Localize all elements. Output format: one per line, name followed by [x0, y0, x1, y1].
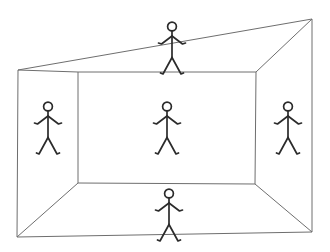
figure-head — [165, 189, 174, 198]
figure-arm-right — [169, 203, 183, 211]
figure-arm-right — [167, 116, 181, 124]
stick-figure-right-wall: Figure on right wall — [275, 102, 302, 154]
edge-bottom-right — [255, 184, 312, 232]
stick-figure-left-wall: Figure on left wall — [35, 102, 62, 154]
figure-arm-left — [159, 36, 173, 44]
stick-figure-floor: Figure on floor — [156, 189, 183, 241]
figure-arm-right — [288, 116, 302, 124]
figure-leg-left — [37, 138, 49, 155]
figure-arm-left — [156, 203, 170, 211]
figure-head — [284, 102, 293, 111]
figure-head — [44, 102, 53, 111]
figure-leg-right — [167, 138, 179, 155]
figure-leg-left — [156, 138, 168, 155]
figure-leg-right — [48, 138, 60, 155]
figure-arm-right — [48, 116, 62, 124]
edge-bottom-left — [17, 183, 78, 237]
room-perspective-diagram: Figure on ceilingFigure on left wallFigu… — [0, 0, 330, 252]
figure-head — [163, 102, 172, 111]
figure-leg-right — [288, 138, 300, 155]
stick-figure-group: Figure on ceilingFigure on left wallFigu… — [35, 22, 302, 241]
figure-head — [168, 22, 177, 31]
box-wireframe — [17, 19, 312, 237]
figure-leg-left — [277, 138, 289, 155]
stick-figure-ceiling: Figure on ceiling — [159, 22, 186, 74]
stick-figure-back-wall: Figure on back wall — [154, 102, 181, 154]
figure-leg-right — [169, 225, 181, 242]
edge-top-left — [18, 70, 78, 72]
figure-leg-left — [158, 225, 170, 242]
diagram-canvas: Figure on ceilingFigure on left wallFigu… — [0, 0, 330, 252]
front-opening — [17, 19, 312, 237]
figure-arm-left — [35, 116, 49, 124]
figure-arm-left — [275, 116, 289, 124]
figure-arm-left — [154, 116, 168, 124]
